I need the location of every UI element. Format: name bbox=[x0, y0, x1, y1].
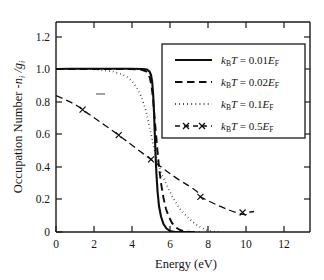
y-axis-title-prefix: Occupation Number bbox=[11, 88, 25, 193]
legend-0-sub-F: F bbox=[275, 59, 279, 68]
legend-2-eq: = bbox=[237, 98, 249, 110]
legend: kBT = 0.01EF kBT = 0.02EF kBT = 0.1EF bbox=[162, 44, 305, 138]
fermi-dirac-occupation-chart: 0 0.2 0.4 0.6 0.8 1.0 1.2 0 2 bbox=[0, 0, 324, 280]
legend-3-eq: = bbox=[237, 120, 249, 132]
y-tick-label-0: 0 bbox=[44, 226, 50, 238]
y-tick-label-1.0: 1.0 bbox=[36, 63, 51, 75]
y-tick-label-0.2: 0.2 bbox=[36, 193, 51, 205]
legend-0-value: 0.01 bbox=[249, 54, 268, 66]
x-tick-label-4: 4 bbox=[129, 238, 135, 250]
x-tick-label-12: 12 bbox=[278, 238, 290, 250]
x-tick-label-2: 2 bbox=[91, 238, 97, 250]
legend-1-eq: = bbox=[237, 76, 249, 88]
legend-1-value: 0.02 bbox=[249, 76, 268, 88]
x-tick-label-8: 8 bbox=[205, 238, 211, 250]
y-tick-label-0.8: 0.8 bbox=[36, 96, 51, 108]
y-axis-title: Occupation Number -ni /gi bbox=[11, 61, 27, 193]
legend-1-sub-F: F bbox=[275, 81, 279, 90]
y-tick-label-1.2: 1.2 bbox=[36, 31, 51, 43]
y-axis-title-text: Occupation Number -ni /gi bbox=[11, 61, 27, 193]
legend-3-sub-F: F bbox=[269, 125, 273, 134]
legend-2-value: 0.1 bbox=[249, 98, 263, 110]
x-axis-title: Energy (eV) bbox=[155, 257, 217, 271]
figure-container: 0 0.2 0.4 0.6 0.8 1.0 1.2 0 2 bbox=[0, 0, 324, 280]
x-tick-label-10: 10 bbox=[240, 238, 252, 250]
y-axis-title-sub-i-2: i bbox=[18, 61, 27, 63]
y-axis-title-n: -n bbox=[11, 78, 25, 88]
legend-3-value: 0.5 bbox=[249, 120, 263, 132]
x-tick-label-0: 0 bbox=[53, 238, 59, 250]
y-axis-title-g: /g bbox=[11, 63, 25, 76]
legend-2-sub-F: F bbox=[269, 103, 273, 112]
y-tick-label-0.6: 0.6 bbox=[36, 128, 51, 140]
legend-0-eq: = bbox=[237, 54, 249, 66]
x-tick-label-6: 6 bbox=[167, 238, 173, 250]
y-tick-label-0.4: 0.4 bbox=[36, 161, 51, 173]
